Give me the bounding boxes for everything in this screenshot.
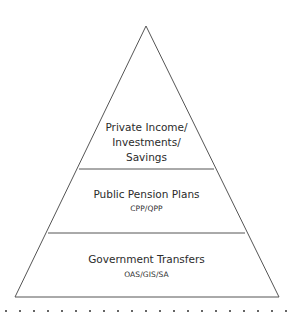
tier-top-label: Private Income/ Investments/ Savings [0, 120, 293, 165]
dotted-baseline [5, 310, 287, 312]
tier-top-line-1: Private Income/ [0, 120, 293, 135]
tier-middle-title: Public Pension Plans [0, 187, 293, 202]
tier-bottom-title: Government Transfers [0, 252, 293, 267]
tier-bottom-subtitle: OAS/GIS/SA [0, 270, 293, 280]
tier-top-line-3: Savings [0, 150, 293, 165]
tier-middle-subtitle: CPP/QPP [0, 204, 293, 214]
tier-top-line-2: Investments/ [0, 135, 293, 150]
